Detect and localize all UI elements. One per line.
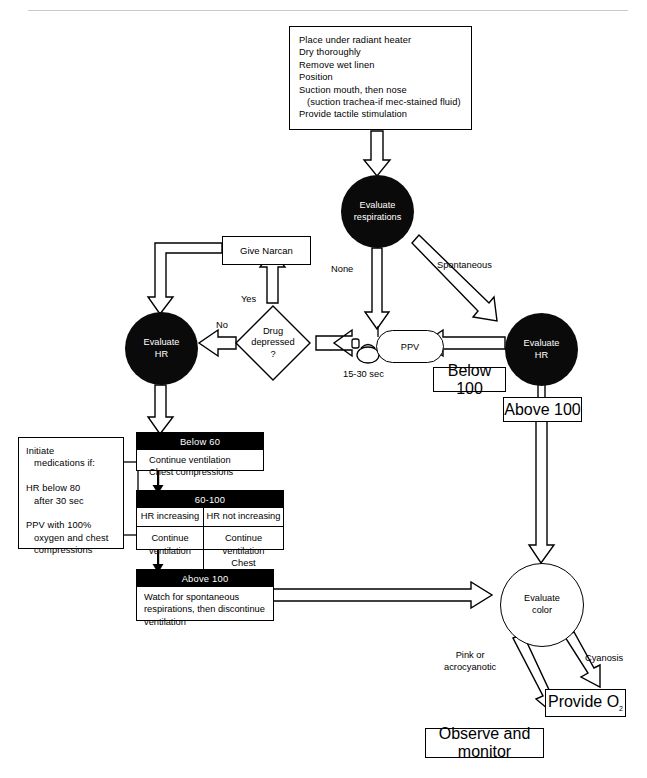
arrow-respirations-spontaneous-to-hr <box>412 235 497 321</box>
flowchart-canvas: Place under radiant heater Dry thoroughl… <box>0 0 647 778</box>
node-evaluate-hr-right[interactable]: Evaluate HR <box>505 313 578 386</box>
table-60-100-col1-header: HR increasing <box>137 508 203 527</box>
edge-label-duration: 15-30 sec <box>343 369 384 381</box>
node-drug-depressed-label: Drug depressed ? <box>235 305 311 381</box>
edge-label-pink-or-acrocyanotic: Pink or acrocyanotic <box>444 650 496 673</box>
node-evaluate-respirations[interactable]: Evaluate respirations <box>341 175 414 248</box>
initial-steps-box: Place under radiant heater Dry thoroughl… <box>289 26 472 130</box>
node-give-narcan-label: Give Narcan <box>240 245 293 256</box>
provide-oxygen-text: Provide O <box>548 693 619 710</box>
node-evaluate-respirations-label: Evaluate respirations <box>354 200 402 223</box>
table-above-100-body: Watch for spontaneous respirations, then… <box>137 587 273 634</box>
node-provide-oxygen-label: Provide O2 <box>548 693 623 712</box>
node-below-100[interactable]: Below 100 <box>433 367 506 392</box>
table-below-60: Below 60 Continue ventilation Chest comp… <box>136 432 264 471</box>
table-60-100-col2-line1: Continue ventilation <box>206 532 281 557</box>
table-below-60-header: Below 60 <box>137 433 263 450</box>
node-evaluate-hr-left[interactable]: Evaluate HR <box>125 312 198 385</box>
medication-criteria-text: Initiate medications if: HR below 80 aft… <box>26 445 123 557</box>
arrow-narcan-to-hr <box>148 243 222 314</box>
node-above-100-right[interactable]: Above 100 <box>503 397 582 422</box>
node-drug-depressed[interactable]: Drug depressed ? <box>235 305 311 381</box>
node-ppv-label: PPV <box>401 342 419 352</box>
node-give-narcan[interactable]: Give Narcan <box>222 236 311 265</box>
table-below-60-body: Continue ventilation Chest compressions <box>137 450 263 484</box>
edge-label-spontaneous: Spontaneous <box>437 260 492 272</box>
node-evaluate-color[interactable]: Evaluate color <box>500 563 584 647</box>
arrow-above100right-to-evaluate-color <box>529 421 554 563</box>
medication-criteria-box: Initiate medications if: HR below 80 aft… <box>18 437 124 549</box>
node-evaluate-hr-left-label: Evaluate HR <box>144 337 180 360</box>
initial-steps-text: Place under radiant heater Dry thoroughl… <box>299 34 471 121</box>
table-60-100-col2-header: HR not increasing <box>203 508 283 527</box>
table-60-100-subheader-row: HR increasing HR not increasing <box>137 508 283 528</box>
arrow-ppv-to-drug-depressed <box>316 330 352 356</box>
node-observe-and-monitor[interactable]: Observe and monitor <box>425 728 544 758</box>
bag-valve-mask-icon <box>352 326 379 363</box>
node-ppv[interactable]: PPV <box>376 330 444 363</box>
node-above-100-right-label: Above 100 <box>504 401 581 419</box>
provide-oxygen-subscript: 2 <box>619 706 623 713</box>
node-evaluate-color-label: Evaluate color <box>524 593 560 616</box>
edge-label-cyanosis: Cyanosis <box>585 653 623 665</box>
table-60-100: 60-100 HR increasing HR not increasing C… <box>136 490 284 550</box>
edge-label-no: No <box>216 320 228 332</box>
edge-label-none: None <box>331 264 353 276</box>
table-above-100: Above 100 Watch for spontaneous respirat… <box>136 569 274 621</box>
arrow-initial-to-respirations <box>364 131 390 176</box>
table-above-100-header: Above 100 <box>137 570 273 587</box>
edge-label-yes: Yes <box>241 294 256 306</box>
arrow-hr-to-below60 <box>148 385 173 434</box>
node-evaluate-hr-right-label: Evaluate HR <box>524 338 560 361</box>
arrow-drug-depressed-no-to-hr <box>199 330 236 356</box>
table-60-100-header: 60-100 <box>137 491 283 508</box>
arrow-above100-to-evaluate-color <box>273 582 492 608</box>
node-observe-and-monitor-label: Observe and monitor <box>426 725 543 761</box>
node-below-100-label: Below 100 <box>434 362 505 398</box>
arrow-respirations-none-to-ppv <box>365 248 389 329</box>
node-provide-oxygen[interactable]: Provide O2 <box>545 689 626 717</box>
